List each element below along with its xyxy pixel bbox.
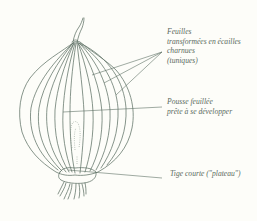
label-feuilles-line-3: charnues: [167, 46, 241, 56]
label-feuilles-line-1: Feuilles: [167, 27, 241, 37]
label-pousse-line-1: Pousse feuillée: [167, 97, 232, 107]
label-tige-line-1: Tige courte ("plateau"): [170, 169, 241, 179]
leader-lines: [63, 52, 162, 178]
leader-feuilles-2: [104, 52, 162, 83]
leader-tige: [68, 170, 162, 178]
onion-outline: [20, 42, 134, 175]
label-feuilles-line-4: (tuniques): [167, 56, 241, 66]
roots: [58, 182, 86, 199]
sprout-tip: [72, 18, 84, 43]
leader-feuilles-1: [92, 52, 162, 75]
inner-shoot: [71, 122, 81, 164]
label-feuilles-line-2: transformées en écailles: [167, 37, 241, 47]
label-tige: Tige courte ("plateau"): [170, 169, 241, 179]
label-pousse: Pousse feuillée prête à se développer: [167, 97, 232, 116]
label-feuilles: Feuilles transformées en écailles charnu…: [167, 27, 241, 65]
scale-leaves: [30, 43, 126, 173]
leader-feuilles-3: [116, 52, 162, 95]
leader-pousse: [63, 107, 162, 112]
label-pousse-line-2: prête à se développer: [167, 107, 232, 117]
